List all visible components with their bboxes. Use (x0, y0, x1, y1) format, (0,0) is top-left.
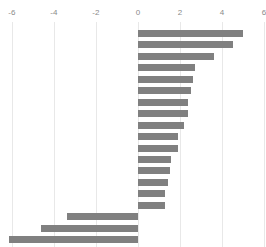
bars (0, 0, 266, 247)
bar (138, 99, 188, 106)
bar (138, 87, 191, 94)
bar (138, 167, 170, 174)
bar (138, 179, 168, 186)
bar (138, 145, 178, 152)
bar (138, 122, 184, 129)
bar (138, 202, 165, 209)
bar (138, 76, 193, 83)
bar (67, 213, 138, 220)
bar (138, 110, 188, 117)
bar (138, 64, 195, 71)
bar (9, 236, 138, 243)
bar (138, 133, 178, 140)
bar (41, 225, 138, 232)
plot-area: -6-4-20246 (0, 0, 266, 247)
bar (138, 190, 165, 197)
bar (138, 41, 233, 48)
bar (138, 53, 214, 60)
bar (138, 30, 243, 37)
bar-chart: -6-4-20246 (0, 0, 266, 247)
bar (138, 156, 171, 163)
